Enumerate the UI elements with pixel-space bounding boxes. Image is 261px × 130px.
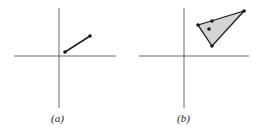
interior-point	[207, 27, 211, 31]
caption-a: (a)	[51, 112, 64, 124]
vertex	[196, 23, 200, 27]
vertex	[242, 9, 246, 13]
endpoint	[63, 50, 67, 54]
endpoint	[88, 34, 92, 38]
diagram	[0, 0, 261, 130]
segment	[65, 36, 90, 52]
panel-a	[14, 8, 116, 108]
vertex	[210, 44, 214, 48]
caption-b: (b)	[177, 112, 190, 124]
panel-b	[139, 8, 249, 108]
triangle	[198, 11, 244, 46]
edge-point	[210, 19, 214, 23]
